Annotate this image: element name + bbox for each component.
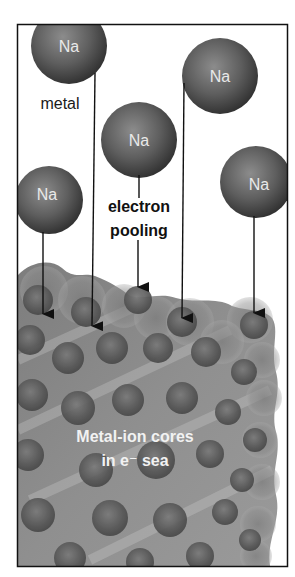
na-atom-1: Na: [31, 8, 107, 84]
sea-label-line1: Metal-ion cores: [76, 428, 193, 445]
electron-sea-lattice: [12, 262, 282, 576]
na-atom-5: Na: [220, 146, 292, 218]
sea-label-line2: in e⁻ sea: [101, 452, 168, 469]
electron-label: electron: [108, 198, 170, 215]
na-atom-1-label: Na: [59, 38, 80, 55]
na-atom-3-label: Na: [129, 132, 150, 149]
na-atom-4-label: Na: [37, 186, 58, 203]
na-atom-4: Na: [15, 166, 83, 234]
na-atom-2-label: Na: [210, 68, 231, 85]
metallic-bonding-diagram: Na Na Na Na Na: [0, 0, 295, 577]
arrow-top-right-atom: [182, 83, 184, 318]
pooling-label: pooling: [110, 222, 168, 239]
na-atom-2: Na: [182, 38, 258, 114]
na-atom-3: Na: [101, 102, 177, 178]
metal-label: metal: [40, 95, 79, 112]
na-atom-5-label: Na: [249, 176, 270, 193]
